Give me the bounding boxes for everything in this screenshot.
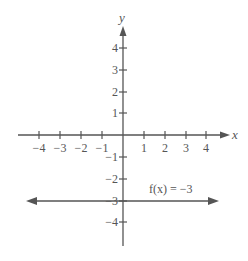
x-axis-label: x [231,127,238,142]
svg-text:3: 3 [183,141,189,155]
svg-text:−2: −2 [75,141,88,155]
line-right-arrow-icon [208,197,219,205]
svg-text:−3: −3 [54,141,67,155]
svg-text:1: 1 [112,106,118,120]
svg-text:3: 3 [112,63,118,77]
x-axis-arrow-icon [220,132,230,139]
y-axis-arrow-icon [120,26,127,36]
svg-text:−2: −2 [105,172,118,186]
svg-text:4: 4 [203,141,209,155]
y-axis-label: y [117,10,125,25]
line-left-arrow-icon [26,197,37,205]
svg-text:−1: −1 [105,150,118,164]
svg-text:2: 2 [112,85,118,99]
svg-text:4: 4 [112,41,118,55]
function-graph: −4 −3 −2 −1 1 2 3 4 4 3 2 1 −1 −2 −3 −4 … [0,0,248,261]
svg-text:1: 1 [141,141,147,155]
svg-text:2: 2 [162,141,168,155]
svg-text:−4: −4 [105,215,118,229]
function-label: f(x) = −3 [149,182,193,196]
x-tick-labels: −4 −3 −2 −1 1 2 3 4 [33,141,209,155]
svg-text:−4: −4 [33,141,46,155]
